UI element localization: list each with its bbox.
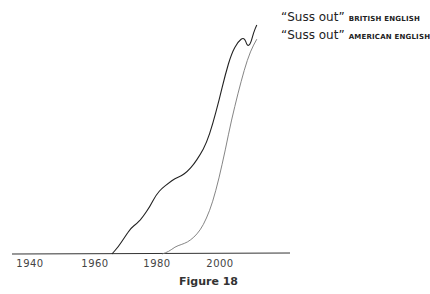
legend-american-quote: “Suss out” <box>281 28 345 42</box>
british-english-line <box>112 25 257 254</box>
x-tick-label: 1980 <box>143 258 170 269</box>
legend-british-label: BRITISH ENGLISH <box>349 15 420 23</box>
figure-caption: Figure 18 <box>0 275 409 288</box>
legend-american-english: “Suss out”AMERICAN ENGLISH <box>281 24 430 43</box>
legend-american-label: AMERICAN ENGLISH <box>349 33 430 41</box>
legend-british-quote: “Suss out” <box>281 10 345 24</box>
american-english-line <box>162 39 256 254</box>
x-axis-line <box>12 253 290 254</box>
x-tick-label: 1960 <box>81 258 108 269</box>
x-tick-label: 1940 <box>16 258 43 269</box>
legend-british-english: “Suss out”BRITISH ENGLISH <box>281 6 420 25</box>
x-tick-label: 2000 <box>206 258 233 269</box>
